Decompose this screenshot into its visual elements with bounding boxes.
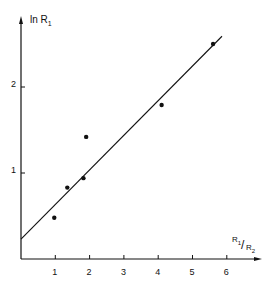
- x-tick-label: 2: [87, 267, 92, 277]
- fit-line: [21, 36, 222, 239]
- y-axis-label: ln R1: [30, 14, 52, 27]
- x-tick-label: 3: [121, 267, 126, 277]
- x-tick-label: 6: [224, 267, 229, 277]
- x-tick-label: 5: [190, 267, 195, 277]
- data-point: [159, 103, 163, 107]
- y-tick-label: 2: [11, 79, 16, 89]
- y-tick-label: 1: [11, 165, 16, 175]
- data-point: [52, 216, 56, 220]
- data-point: [81, 176, 85, 180]
- data-point: [65, 185, 69, 189]
- x-tick-label: 1: [52, 267, 57, 277]
- data-point: [211, 42, 215, 46]
- y-axis-arrow-icon: [19, 16, 23, 24]
- data-point: [84, 135, 88, 139]
- x-tick-label: 4: [155, 267, 160, 277]
- x-axis-arrow-icon: [254, 257, 262, 261]
